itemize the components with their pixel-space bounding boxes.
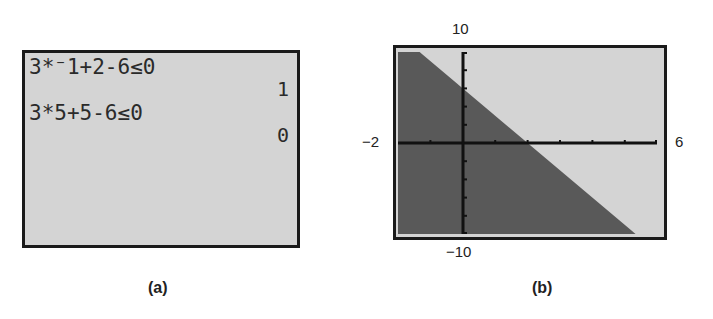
panel-a-label: (a) xyxy=(148,279,168,297)
ymin-label: −10 xyxy=(446,243,471,260)
graph-screen xyxy=(393,45,667,240)
inequality-graph xyxy=(393,45,667,240)
expression-line-1: 3*⁻1+2-6≤0 xyxy=(29,55,155,79)
panel-b-label: (b) xyxy=(532,279,552,297)
xmin-label: −2 xyxy=(362,133,379,150)
result-line-1: 1 xyxy=(277,77,289,101)
result-line-2: 0 xyxy=(277,123,289,147)
calculator-home-screen: 3*⁻1+2-6≤0 1 3*5+5-6≤0 0 xyxy=(22,50,300,248)
ymax-label: 10 xyxy=(452,20,469,37)
xmax-label: 6 xyxy=(675,133,683,150)
expression-line-2: 3*5+5-6≤0 xyxy=(29,101,143,125)
